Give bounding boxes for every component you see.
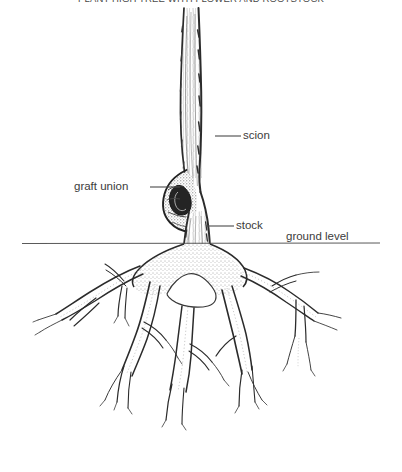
label-graft-union: graft union <box>74 180 128 192</box>
ground-level-line <box>22 243 380 244</box>
scion-trunk <box>180 8 203 192</box>
label-stock: stock <box>236 219 263 231</box>
rootstock-root-system <box>33 244 341 430</box>
label-ground-level: ground level <box>286 230 349 242</box>
label-scion: scion <box>243 129 270 141</box>
grafted-tree-diagram: PLANT HIGH TREE WITH FLOWER AND ROOTSTOC… <box>0 0 402 472</box>
